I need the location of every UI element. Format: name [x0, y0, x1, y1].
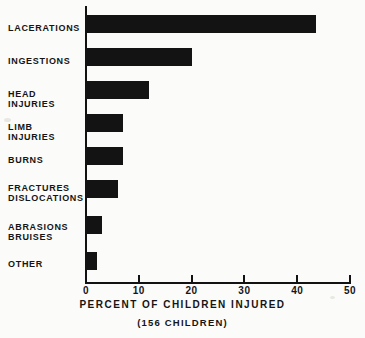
x-tick-0: [85, 275, 87, 283]
bar-ingestions: [86, 48, 192, 66]
x-tick-40: [296, 275, 298, 283]
x-axis-subtitle: (156 CHILDREN): [0, 317, 365, 328]
x-tick-10: [138, 275, 140, 283]
x-tick-label-20: 20: [177, 285, 207, 296]
x-tick-30: [243, 275, 245, 283]
category-label-burns: BURNS: [8, 155, 82, 165]
bar-head-injuries: [86, 81, 149, 99]
x-tick-label-0: 0: [71, 285, 101, 296]
x-tick-50: [349, 275, 351, 283]
category-label-ingestions: INGESTIONS: [8, 56, 82, 66]
x-tick-label-10: 10: [124, 285, 154, 296]
bar-limb-injuries: [86, 114, 123, 132]
x-tick-20: [191, 275, 193, 283]
category-label-abrasions-bruises: ABRASIONS BRUISES: [8, 222, 82, 242]
category-label-lacerations: LACERATIONS: [8, 23, 82, 33]
plot-area: LACERATIONS INGESTIONS HEAD INJURIES LIM…: [0, 0, 365, 338]
bar-chart-figure: LACERATIONS INGESTIONS HEAD INJURIES LIM…: [0, 0, 365, 338]
category-label-limb-injuries: LIMB INJURIES: [8, 122, 82, 142]
x-tick-label-50: 50: [335, 285, 365, 296]
category-label-other: OTHER: [8, 259, 82, 269]
category-label-head-injuries: HEAD INJURIES: [8, 89, 82, 109]
bar-lacerations: [86, 15, 316, 33]
bar-abrasions-bruises: [86, 216, 102, 234]
bar-fractures-dislocations: [86, 180, 118, 198]
category-label-fractures-dislocations: FRACTURES DISLOCATIONS: [8, 183, 82, 203]
bar-burns: [86, 147, 123, 165]
x-tick-label-30: 30: [229, 285, 259, 296]
x-tick-label-40: 40: [282, 285, 312, 296]
x-axis-line: [85, 282, 351, 284]
bar-other: [86, 252, 97, 270]
x-axis-title: PERCENT OF CHILDREN INJURED: [0, 299, 365, 310]
